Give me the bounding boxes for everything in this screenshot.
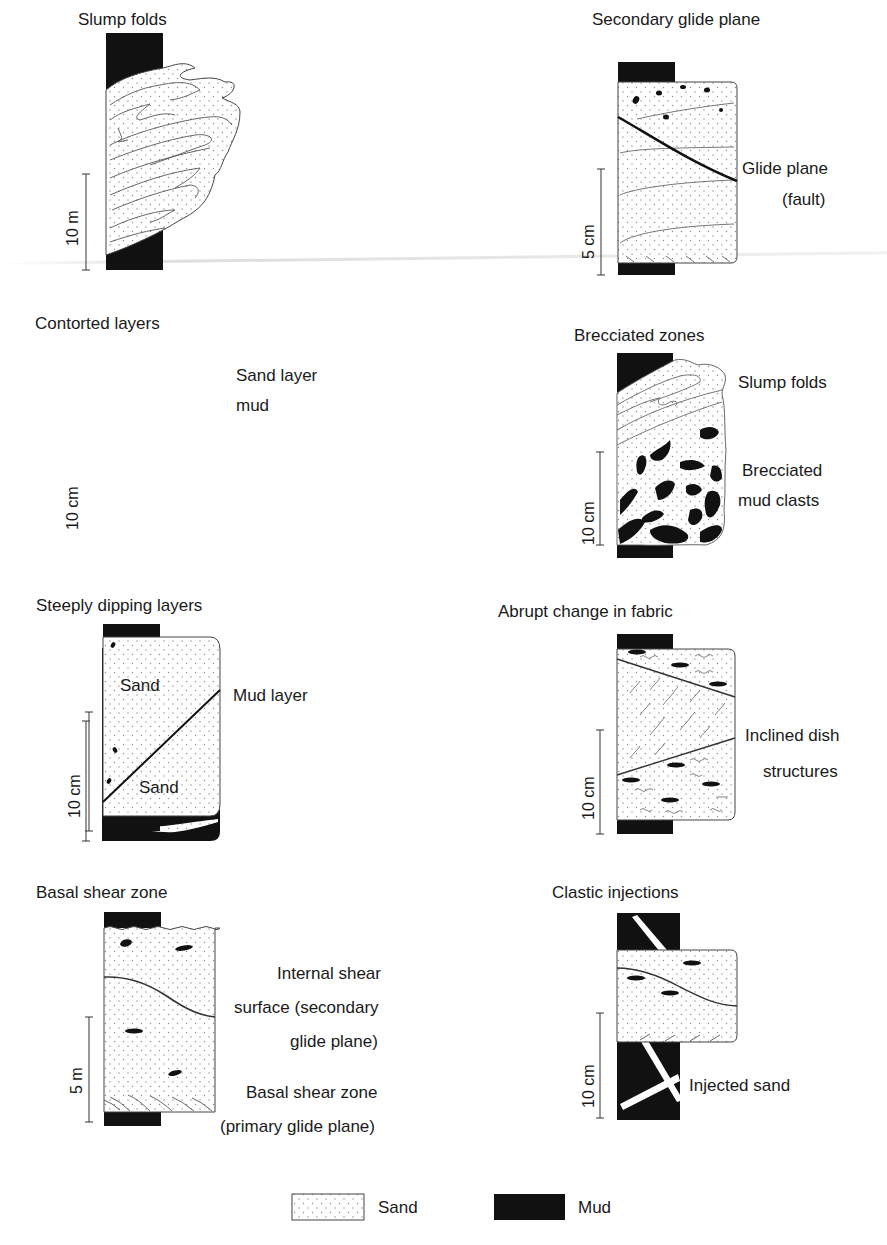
legend-swatch-mud [494,1194,565,1220]
legend-label-sand: Sand [378,1198,418,1218]
legend-swatch-sand [292,1194,364,1220]
legend-label-mud: Mud [578,1198,611,1218]
legend-swatches [0,0,887,1245]
